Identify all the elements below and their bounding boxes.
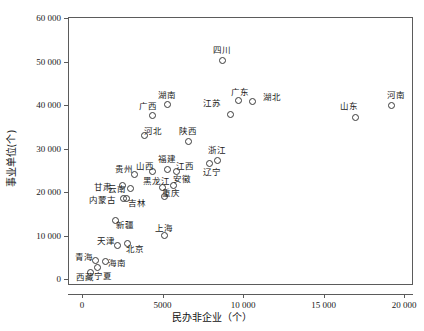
data-point[interactable]: [185, 138, 192, 145]
data-point-label: 陕西: [179, 127, 197, 136]
data-point-label: 广西: [139, 102, 157, 111]
data-point-label: 河北: [144, 126, 162, 135]
data-point[interactable]: [235, 97, 242, 104]
data-point[interactable]: [161, 232, 168, 239]
data-point[interactable]: [219, 57, 226, 64]
data-point[interactable]: [120, 195, 127, 202]
data-point-label: 西藏: [76, 273, 94, 282]
x-tick-mark: [163, 294, 164, 298]
data-point-label: 四川: [213, 46, 231, 55]
y-tick-mark: [64, 105, 68, 106]
data-point-label: 海南: [108, 258, 126, 267]
data-point[interactable]: [119, 182, 126, 189]
y-tick-label: 20 000: [36, 187, 61, 197]
y-axis-title: 事业单位(个): [3, 99, 18, 219]
y-tick-label: 60 000: [36, 13, 61, 23]
y-tick-mark: [64, 192, 68, 193]
x-tick-mark: [324, 294, 325, 298]
data-point[interactable]: [214, 157, 221, 164]
y-tick-label: 50 000: [36, 57, 61, 67]
data-point-label: 山东: [340, 101, 358, 110]
y-tick-label: 0: [57, 274, 62, 284]
y-tick-mark: [64, 279, 68, 280]
data-point-label: 福建: [158, 154, 176, 163]
data-point[interactable]: [164, 166, 171, 173]
data-point-label: 广东: [231, 87, 249, 96]
y-tick-mark: [64, 236, 68, 237]
data-point-label: 宁夏: [94, 271, 112, 280]
data-point-label: 江苏: [203, 99, 221, 108]
y-tick-mark: [64, 149, 68, 150]
data-point-label: 北京: [126, 244, 144, 253]
data-point-label: 青海: [75, 253, 93, 262]
scatter-chart: 010 00020 00030 00040 00050 00060 000 05…: [0, 0, 424, 331]
x-axis-title: 民办非企业（个）: [0, 309, 424, 324]
data-point-label: 天津: [97, 236, 115, 245]
data-point-label: 河南: [387, 90, 405, 99]
data-point-label: 湖北: [263, 92, 281, 101]
data-point-label: 贵州: [115, 164, 133, 173]
data-point[interactable]: [164, 101, 171, 108]
data-point-label: 山西: [136, 161, 154, 170]
y-tick-mark: [64, 62, 68, 63]
data-point[interactable]: [388, 102, 395, 109]
data-point[interactable]: [127, 185, 134, 192]
data-point-label: 甘肃: [94, 183, 112, 192]
data-point-label: 重庆: [162, 188, 180, 197]
data-point-label: 黑龙江: [143, 176, 170, 185]
y-tick-mark: [64, 18, 68, 19]
y-tick-label: 40 000: [36, 100, 61, 110]
data-point-label: 安徽: [173, 175, 191, 184]
data-point[interactable]: [352, 114, 359, 121]
x-tick-mark: [404, 294, 405, 298]
data-point-label: 新疆: [116, 220, 134, 229]
data-point-label: 内蒙古: [89, 196, 116, 205]
data-point[interactable]: [92, 257, 99, 264]
data-point-label: 江西: [176, 161, 194, 170]
data-point[interactable]: [227, 111, 234, 118]
y-tick-label: 10 000: [36, 231, 61, 241]
data-point-label: 辽宁: [203, 167, 221, 176]
x-tick-mark: [243, 294, 244, 298]
data-point-label: 湖南: [158, 90, 176, 99]
data-point-label: 浙江: [208, 145, 226, 154]
data-point[interactable]: [149, 112, 156, 119]
data-point-label: 上海: [155, 223, 173, 232]
x-axis-line: [68, 294, 413, 295]
x-tick-mark: [82, 294, 83, 298]
y-tick-label: 30 000: [36, 144, 61, 154]
data-point-label: 吉林: [128, 198, 146, 207]
